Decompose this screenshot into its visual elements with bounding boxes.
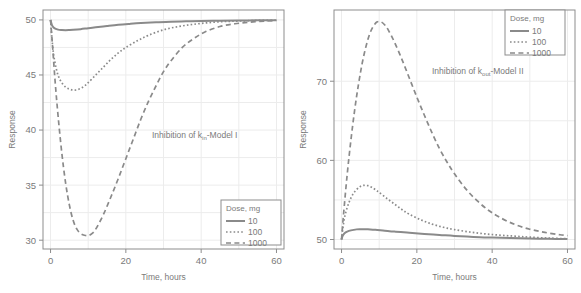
y-tick-label: 30	[25, 235, 36, 246]
legend-label-dose-1000: 1000	[532, 48, 551, 58]
y-tick-label: 45	[25, 69, 36, 80]
chart-svg: 5060700204060Time, hoursResponseInhibiti…	[290, 0, 580, 293]
legend-title: Dose, mg	[510, 14, 544, 23]
chart-panel-right: 5060700204060Time, hoursResponseInhibiti…	[290, 0, 580, 293]
two-panel-pk-pd-figure: 30354045500204060Time, hoursResponseInhi…	[0, 0, 581, 293]
annotation-main: Inhibition of k	[152, 130, 203, 140]
plot-annotation: Inhibition of kout-Model II	[432, 66, 524, 77]
legend-label-dose-1000: 1000	[248, 238, 267, 248]
y-axis-title: Response	[7, 110, 17, 149]
legend[interactable]: Dose, mg101001000	[505, 10, 565, 58]
y-tick-label: 50	[25, 14, 36, 25]
y-tick-label: 60	[316, 155, 327, 166]
chart-panel-left: 30354045500204060Time, hoursResponseInhi…	[0, 0, 290, 293]
annotation-main: Inhibition of k	[432, 66, 483, 76]
x-tick-label: 20	[412, 255, 423, 266]
x-tick-label: 20	[121, 255, 132, 266]
plot-annotation: Inhibition of kin-Model I	[152, 130, 237, 141]
y-tick-label: 40	[25, 124, 36, 135]
legend-title: Dose, mg	[226, 204, 260, 213]
x-tick-label: 40	[487, 255, 498, 266]
y-tick-label: 35	[25, 180, 36, 191]
x-axis-title: Time, hours	[141, 272, 186, 282]
x-tick-label: 60	[271, 255, 282, 266]
annotation-tail: -Model I	[207, 130, 238, 140]
x-tick-label: 0	[48, 255, 53, 266]
y-tick-label: 70	[316, 76, 327, 87]
legend-label-dose-100: 100	[248, 227, 262, 237]
legend-label-dose-10: 10	[248, 216, 258, 226]
x-tick-label: 60	[562, 255, 573, 266]
chart-svg: 30354045500204060Time, hoursResponseInhi…	[0, 0, 290, 293]
y-axis-title: Response	[298, 110, 308, 149]
x-axis-title: Time, hours	[432, 272, 477, 282]
legend-label-dose-100: 100	[532, 37, 546, 47]
legend-label-dose-10: 10	[532, 26, 542, 36]
annotation-tail: -Model II	[490, 66, 523, 76]
x-tick-label: 40	[196, 255, 207, 266]
legend[interactable]: Dose, mg101001000	[221, 200, 281, 248]
y-tick-label: 50	[316, 234, 327, 245]
x-tick-label: 0	[339, 255, 344, 266]
